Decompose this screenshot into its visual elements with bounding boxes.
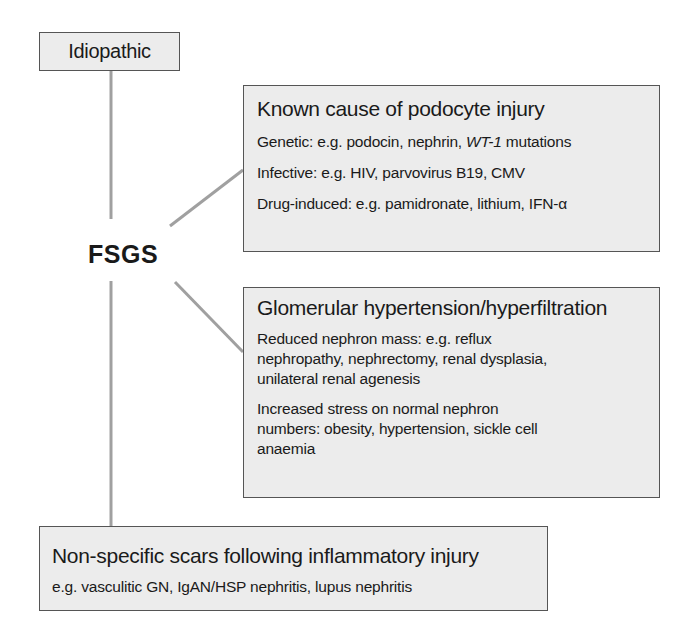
known-cause-box: Known cause of podocyte injury Genetic: …: [243, 85, 660, 252]
known-cause-title: Known cause of podocyte injury: [257, 96, 659, 122]
genetic-suffix: mutations: [502, 133, 572, 150]
nonspecific-title: Non-specific scars following inflammator…: [52, 543, 547, 569]
text-line: unilateral renal agenesis: [257, 369, 659, 389]
genetic-prefix: Genetic: e.g. podocin, nephrin,: [257, 133, 466, 150]
nonspecific-examples: e.g. vasculitic GN, IgAN/HSP nephritis, …: [52, 577, 547, 597]
text-line: nephropathy, nephrectomy, renal dysplasi…: [257, 349, 659, 369]
glomerular-reduced-mass: Reduced nephron mass: e.g. reflux nephro…: [257, 329, 659, 389]
fsgs-center-label: FSGS: [88, 240, 158, 269]
text-line: anaemia: [257, 439, 659, 459]
nonspecific-scars-box: Non-specific scars following inflammator…: [39, 526, 548, 611]
connector-fsgs-known-cause: [170, 170, 243, 226]
glomerular-title: Glomerular hypertension/hyperfiltration: [257, 295, 659, 321]
text-line: numbers: obesity, hypertension, sickle c…: [257, 419, 659, 439]
idiopathic-box: Idiopathic: [39, 32, 180, 71]
connector-fsgs-glomerular: [175, 282, 243, 352]
idiopathic-title: Idiopathic: [40, 33, 179, 70]
text-line: Reduced nephron mass: e.g. reflux: [257, 329, 659, 349]
glomerular-box: Glomerular hypertension/hyperfiltration …: [243, 287, 660, 498]
genetic-gene-italic: WT-1: [466, 133, 502, 150]
text-line: Increased stress on normal nephron: [257, 399, 659, 419]
glomerular-increased-stress: Increased stress on normal nephron numbe…: [257, 399, 659, 459]
known-cause-genetic: Genetic: e.g. podocin, nephrin, WT-1 mut…: [257, 132, 659, 152]
known-cause-infective: Infective: e.g. HIV, parvovirus B19, CMV: [257, 163, 659, 183]
known-cause-drug-induced: Drug-induced: e.g. pamidronate, lithium,…: [257, 194, 659, 214]
